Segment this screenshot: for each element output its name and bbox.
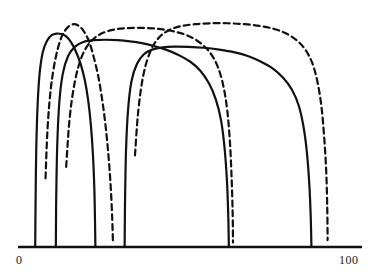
- x-axis-min-label: 0: [16, 253, 23, 268]
- figure-root: 0 100: [0, 0, 386, 276]
- plot-canvas: [0, 0, 386, 276]
- x-axis-max-label: 100: [339, 253, 359, 268]
